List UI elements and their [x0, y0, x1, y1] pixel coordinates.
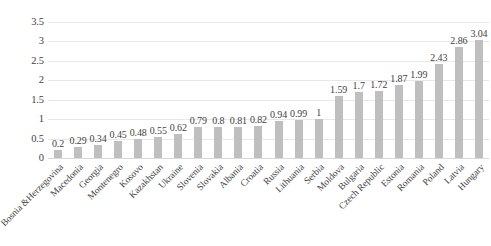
bar-group: 1.87 — [389, 22, 409, 158]
bar-value-label: 2.86 — [450, 36, 467, 46]
bar-value-label: 0.2 — [52, 139, 64, 149]
bar — [415, 81, 423, 158]
bar — [94, 145, 102, 158]
gridline — [48, 158, 489, 159]
x-axis-tick: Macedonia — [68, 160, 88, 246]
bar-value-label: 1 — [316, 108, 321, 118]
bar — [355, 92, 363, 158]
y-axis-tick-label: 1 — [0, 114, 44, 124]
y-axis-tick-label: 1.5 — [0, 95, 44, 105]
bar-group: 0.2 — [48, 22, 68, 158]
bar-group: 0.8 — [208, 22, 228, 158]
bar-value-label: 0.55 — [150, 126, 167, 136]
bar — [134, 139, 142, 158]
x-axis-tick: Estonia — [389, 160, 409, 246]
x-axis-tick: Romania — [409, 160, 429, 246]
x-axis-tick: Croatia — [248, 160, 268, 246]
bar-group: 2.43 — [429, 22, 449, 158]
bar-value-label: 3.04 — [470, 29, 487, 39]
bar-value-label: 0.94 — [270, 110, 287, 120]
bar-group: 1.72 — [369, 22, 389, 158]
bar-group: 0.99 — [289, 22, 309, 158]
y-axis-tick-label: 0 — [0, 153, 44, 163]
x-axis-tick: Latvia — [449, 160, 469, 246]
bar-group: 1.59 — [329, 22, 349, 158]
bar-group: 0.79 — [188, 22, 208, 158]
bar-group: 0.48 — [128, 22, 148, 158]
y-axis-tick-label: 3.5 — [0, 17, 44, 27]
bar-group: 0.34 — [88, 22, 108, 158]
bar-value-label: 1.87 — [390, 74, 407, 84]
bar-group: 1.7 — [349, 22, 369, 158]
bar — [395, 85, 403, 158]
bar-group: 0.62 — [168, 22, 188, 158]
bar-chart: 00.511.522.533.5 0.20.290.340.450.480.55… — [0, 0, 491, 246]
bar-group: 0.94 — [269, 22, 289, 158]
y-axis-tick-label: 0.5 — [0, 134, 44, 144]
x-axis-tick: Serbia — [309, 160, 329, 246]
x-axis-tick: Georgia — [88, 160, 108, 246]
bar — [254, 126, 262, 158]
y-axis-tick-label: 2 — [0, 75, 44, 85]
x-axis: Bosnia &HerzegovinaMacedoniaGeorgiaMonte… — [48, 160, 489, 246]
bar — [275, 121, 283, 158]
y-axis-tick-label: 2.5 — [0, 56, 44, 66]
bar — [114, 141, 122, 158]
bar-value-label: 1.99 — [410, 70, 427, 80]
bar-group: 0.82 — [248, 22, 268, 158]
bar-value-label: 0.34 — [90, 134, 107, 144]
bar-value-label: 0.62 — [170, 123, 187, 133]
bar — [315, 119, 323, 158]
x-axis-tick: Czech Republic — [369, 160, 389, 246]
bars-layer: 0.20.290.340.450.480.550.620.790.80.810.… — [48, 22, 489, 158]
bar — [455, 47, 463, 158]
bar-group: 0.45 — [108, 22, 128, 158]
bar-value-label: 0.8 — [212, 116, 224, 126]
bar — [375, 91, 383, 158]
bar-value-label: 1.59 — [330, 85, 347, 95]
bar-group: 1 — [309, 22, 329, 158]
bar-value-label: 1.7 — [353, 81, 365, 91]
bar — [194, 127, 202, 158]
x-axis-tick: Hungary — [469, 160, 489, 246]
bar-value-label: 0.45 — [110, 130, 127, 140]
bar — [435, 64, 443, 158]
bar — [295, 120, 303, 158]
bar — [335, 96, 343, 158]
bar-group: 2.86 — [449, 22, 469, 158]
bar — [54, 150, 62, 158]
bar-group: 3.04 — [469, 22, 489, 158]
bar — [174, 134, 182, 158]
bar-value-label: 2.43 — [430, 53, 447, 63]
bar — [475, 40, 483, 158]
x-axis-tick: Russia — [269, 160, 289, 246]
bar-group: 1.99 — [409, 22, 429, 158]
bar-value-label: 0.81 — [230, 116, 247, 126]
x-axis-tick: Poland — [429, 160, 449, 246]
bar-value-label: 0.99 — [290, 109, 307, 119]
y-axis-tick-label: 3 — [0, 36, 44, 46]
x-axis-tick: Lithuania — [289, 160, 309, 246]
bar — [154, 137, 162, 158]
bar-group: 0.81 — [228, 22, 248, 158]
bar-value-label: 0.48 — [130, 128, 147, 138]
bar — [234, 127, 242, 158]
bar — [74, 147, 82, 158]
bar — [214, 127, 222, 158]
bar-value-label: 0.29 — [69, 136, 86, 146]
bar-value-label: 1.72 — [370, 80, 387, 90]
bar-value-label: 0.79 — [190, 116, 207, 126]
x-axis-tick: Bosnia &Herzegovina — [48, 160, 68, 246]
bar-value-label: 0.82 — [250, 115, 267, 125]
bar-group: 0.55 — [148, 22, 168, 158]
bar-group: 0.29 — [68, 22, 88, 158]
